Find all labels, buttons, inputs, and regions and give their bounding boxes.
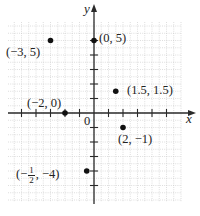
point-label-neg-half-neg4: (−12, −4) [16,166,59,185]
point-dot [120,125,126,131]
point-dot [48,38,54,44]
y-axis-label: y [84,2,90,15]
point-dot [91,38,97,44]
p6-close: , −4) [36,167,60,181]
x-axis-label: x [186,112,192,125]
fraction-one-half: 12 [28,166,35,185]
p6-open: (− [16,167,27,181]
point-label-0-5: (0, 5) [99,32,126,45]
origin-label: 0 [84,115,90,128]
point-dot [84,168,90,174]
point-dot [113,88,119,94]
point-dot [62,110,68,116]
point-label-neg3-5: (−3, 5) [6,46,40,59]
point-label-neg2-0: (−2, 0) [27,97,61,110]
point-label-1.5-1.5: (1.5, 1.5) [127,84,173,97]
point-label-2-neg1: (2, −1) [118,133,152,146]
